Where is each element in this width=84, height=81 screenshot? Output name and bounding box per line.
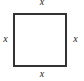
- side-label-top: x: [30, 0, 54, 7]
- side-label-left: x: [0, 34, 12, 44]
- side-label-bottom: x: [30, 69, 54, 79]
- geometry-figure-canvas: x x x x: [0, 0, 84, 81]
- square-shape: [13, 13, 67, 67]
- side-label-right: x: [69, 34, 82, 44]
